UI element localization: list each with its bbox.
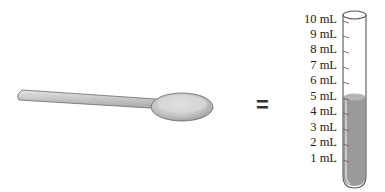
equals-sign: = (256, 92, 269, 118)
spoon-icon (0, 0, 250, 192)
scale-label-9: 9 mL (287, 27, 337, 41)
scale-label-1: 1 mL (287, 151, 337, 165)
scale-label-7: 7 mL (287, 58, 337, 72)
test-tube-icon (338, 0, 372, 192)
scale-label-6: 6 mL (287, 73, 337, 87)
scale-label-5: 5 mL (287, 89, 337, 103)
scale-label-10: 10 mL (287, 12, 337, 26)
scale-label-8: 8 mL (287, 42, 337, 56)
spoon-to-tube-diagram: = 10 mL 9 mL 8 mL 7 mL 6 mL 5 mL 4 mL 3 … (0, 0, 385, 192)
scale-label-2: 2 mL (287, 135, 337, 149)
scale-label-3: 3 mL (287, 120, 337, 134)
scale-label-4: 4 mL (287, 104, 337, 118)
